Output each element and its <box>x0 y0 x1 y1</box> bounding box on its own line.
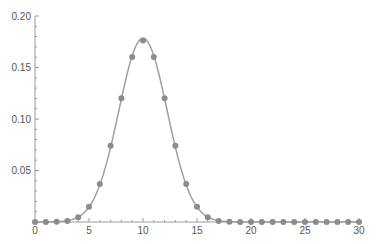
axes: 0.050.100.150.20051015202530 <box>12 11 365 237</box>
data-point <box>162 95 168 101</box>
data-point <box>172 143 178 149</box>
y-tick-label: 0.15 <box>12 62 32 73</box>
data-point <box>64 218 70 224</box>
data-markers <box>32 38 362 225</box>
x-tick-label: 5 <box>86 225 92 236</box>
data-point <box>118 95 124 101</box>
x-tick-label: 0 <box>32 225 38 236</box>
x-tick-label: 30 <box>353 225 365 236</box>
data-point <box>356 219 362 225</box>
data-point <box>75 214 81 220</box>
data-point <box>259 219 265 225</box>
data-point <box>302 219 308 225</box>
x-tick-label: 10 <box>137 225 149 236</box>
data-point <box>108 143 114 149</box>
data-point <box>205 214 211 220</box>
data-point <box>54 219 60 225</box>
data-point <box>86 204 92 210</box>
data-point <box>129 54 135 60</box>
data-point <box>151 54 157 60</box>
data-point <box>183 181 189 187</box>
data-point <box>32 219 38 225</box>
data-point <box>226 219 232 225</box>
y-tick-label: 0.05 <box>12 165 32 176</box>
data-point <box>140 38 146 44</box>
data-point <box>270 219 276 225</box>
data-point <box>97 181 103 187</box>
data-point <box>313 219 319 225</box>
data-curve <box>35 38 359 222</box>
data-point <box>345 219 351 225</box>
x-tick-label: 15 <box>191 225 203 236</box>
data-point <box>280 219 286 225</box>
data-point <box>334 219 340 225</box>
data-point <box>194 204 200 210</box>
data-point <box>324 219 330 225</box>
x-tick-label: 20 <box>245 225 257 236</box>
data-point <box>216 218 222 224</box>
data-point <box>248 219 254 225</box>
data-point <box>43 219 49 225</box>
x-tick-label: 25 <box>299 225 311 236</box>
chart: 0.050.100.150.20051015202530 <box>0 0 379 244</box>
data-point <box>237 219 243 225</box>
y-tick-label: 0.10 <box>12 114 32 125</box>
data-point <box>291 219 297 225</box>
y-tick-label: 0.20 <box>12 11 32 22</box>
curve-line <box>35 38 359 222</box>
